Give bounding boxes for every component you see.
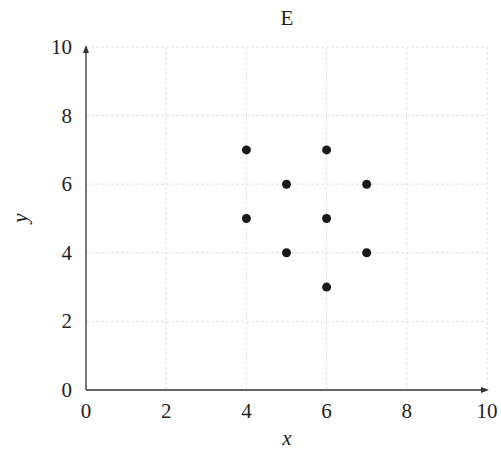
data-point (322, 283, 331, 292)
x-tick-label: 8 (402, 399, 413, 423)
x-tick-label: 10 (477, 399, 498, 423)
x-tick-label: 4 (241, 399, 252, 423)
y-tick-label: 10 (51, 35, 72, 59)
y-tick-label: 2 (62, 309, 73, 333)
y-axis-label: y (8, 213, 32, 225)
x-tick-labels: 0246810 (81, 399, 498, 423)
grid (86, 47, 487, 390)
x-tick-label: 2 (161, 399, 172, 423)
y-tick-labels: 0246810 (51, 35, 73, 402)
scatter-chart: E 0246810 0246810 x y (0, 0, 501, 455)
x-tick-label: 6 (321, 399, 332, 423)
y-tick-label: 0 (62, 378, 73, 402)
chart-title: E (281, 6, 294, 30)
x-axis-arrow-icon (481, 387, 489, 393)
y-tick-label: 6 (62, 172, 73, 196)
data-point (362, 248, 371, 257)
x-tick-label: 0 (81, 399, 92, 423)
data-point (322, 145, 331, 154)
axes (83, 45, 489, 393)
x-axis-label: x (281, 426, 292, 450)
data-point (242, 145, 251, 154)
data-point (282, 248, 291, 257)
y-tick-label: 8 (62, 104, 73, 128)
data-point (282, 180, 291, 189)
data-point (362, 180, 371, 189)
data-points (242, 145, 371, 291)
data-point (322, 214, 331, 223)
data-point (242, 214, 251, 223)
y-axis-arrow-icon (83, 45, 89, 53)
y-tick-label: 4 (62, 241, 73, 265)
